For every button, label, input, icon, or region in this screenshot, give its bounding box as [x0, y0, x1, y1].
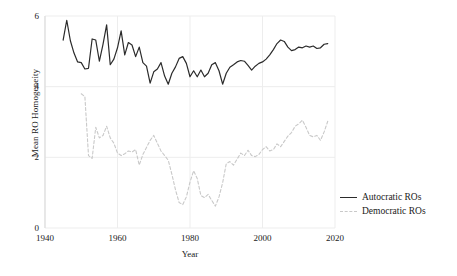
chart-legend: Autocratic ROs Democratic ROs — [340, 190, 426, 218]
x-tick-label: 1960 — [98, 234, 138, 243]
legend-label: Democratic ROs — [362, 204, 426, 218]
legend-label: Autocratic ROs — [362, 190, 421, 204]
legend-item-democratic: Democratic ROs — [340, 204, 426, 218]
x-tick-label: 2000 — [243, 234, 283, 243]
legend-item-autocratic: Autocratic ROs — [340, 190, 426, 204]
y-tick-label: 6 — [19, 12, 39, 21]
x-tick-label: 2020 — [315, 234, 355, 243]
y-tick-label: 0 — [19, 224, 39, 233]
y-axis-title: Mean RO Homogeneity — [30, 33, 40, 193]
legend-line-dashed-icon — [340, 211, 357, 212]
x-tick-label: 1940 — [25, 234, 65, 243]
plot-area — [0, 0, 457, 276]
x-axis-title: Year — [45, 249, 335, 259]
x-tick-label: 1980 — [170, 234, 210, 243]
chart-figure: Mean RO Homogeneity Year 0 2 4 6 1940 19… — [0, 0, 457, 276]
y-tick-label: 4 — [19, 82, 39, 91]
y-tick-label: 2 — [19, 153, 39, 162]
legend-line-solid-icon — [340, 197, 357, 198]
